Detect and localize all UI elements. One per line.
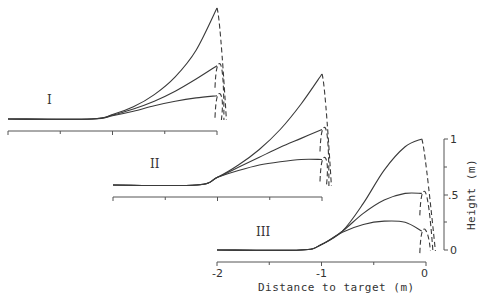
trajectory-low xyxy=(8,96,217,120)
fall-dashed-mid xyxy=(320,127,329,186)
fall-dashed-mid xyxy=(420,191,433,251)
x-axis xyxy=(8,131,217,135)
panel-i xyxy=(8,8,226,135)
fall-dashed-high xyxy=(217,8,226,120)
x-axis-title: Distance to target (m) xyxy=(258,281,415,294)
x-tick-label-0: 0 xyxy=(421,267,428,280)
fall-dashed-high xyxy=(422,139,436,251)
fall-dashed-low xyxy=(320,157,327,186)
fall-dashed-low xyxy=(420,229,431,253)
panels-group xyxy=(8,8,435,266)
y-tick-label-1: 1 xyxy=(450,133,457,146)
x-axis xyxy=(113,197,322,201)
panel-label-ii: II xyxy=(150,157,160,171)
y-tick-label-05: .5 xyxy=(448,189,459,202)
trajectory-mid xyxy=(8,66,217,120)
trajectory-high xyxy=(217,139,422,250)
panel-label-i: I xyxy=(47,93,52,107)
trajectory-chart: I II III -2 -1 0 Distance to target (m) … xyxy=(0,0,481,294)
x-axis xyxy=(217,262,426,266)
panel-iii xyxy=(217,139,435,266)
trajectory-low xyxy=(113,159,322,185)
trajectory-high xyxy=(113,74,322,186)
x-tick-label-neg2: -2 xyxy=(212,267,223,280)
panel-label-iii: III xyxy=(256,225,270,239)
y-axis-title: Height (m) xyxy=(465,159,478,230)
y-tick-label-0: 0 xyxy=(450,244,457,257)
trajectory-mid xyxy=(217,193,422,251)
fall-dashed-low xyxy=(215,94,222,120)
panel-ii xyxy=(113,74,331,201)
trajectory-high xyxy=(8,8,217,119)
trajectory-low xyxy=(217,221,422,251)
x-tick-label-neg1: -1 xyxy=(316,267,327,280)
